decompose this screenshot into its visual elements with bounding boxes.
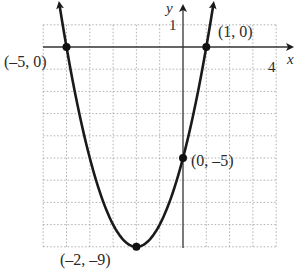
x-axis-label: x <box>286 51 294 67</box>
y-axis-label: y <box>164 0 173 16</box>
point-marker <box>202 43 210 51</box>
point-label-0-neg5: (0, –5) <box>191 152 234 170</box>
point-marker <box>179 154 187 162</box>
point-label-neg5-0: (–5, 0) <box>4 53 47 71</box>
point-label-neg2-neg9: (–2, –9) <box>60 251 111 269</box>
y-tick-label: 1 <box>169 17 177 33</box>
grid <box>43 25 276 247</box>
parabola-graph: x y 4 1 (–5, 0) (1, 0) (0, –5) (–2, –9) <box>0 0 296 275</box>
point-marker <box>132 243 140 251</box>
point-label-1-0: (1, 0) <box>218 23 253 41</box>
point-marker <box>63 43 71 51</box>
x-tick-label: 4 <box>268 59 276 75</box>
